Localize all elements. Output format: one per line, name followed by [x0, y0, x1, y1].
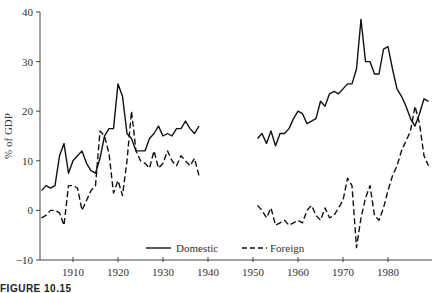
x-tick-label: 1980: [377, 266, 400, 278]
x-tick-label: 1970: [332, 266, 355, 278]
y-ticks: −10010203040: [16, 6, 40, 266]
y-tick-label: 20: [22, 105, 34, 117]
legend: Domestic Foreign: [146, 242, 305, 254]
x-tick-label: 1930: [152, 266, 175, 278]
y-tick-label: 0: [28, 204, 34, 216]
x-tick-label: 1960: [287, 266, 310, 278]
x-tick-label: 1910: [62, 266, 85, 278]
y-tick-label: 30: [22, 56, 34, 68]
y-tick-label: −10: [16, 254, 34, 266]
legend-foreign-label: Foreign: [270, 242, 305, 254]
series-foreign-line: [258, 106, 429, 247]
x-tick-label: 1950: [242, 266, 265, 278]
y-tick-label: 40: [22, 6, 34, 18]
figure-caption: FIGURE 10.15: [0, 283, 72, 293]
x-tick-label: 1940: [197, 266, 220, 278]
legend-domestic-label: Domestic: [176, 242, 218, 254]
y-tick-label: 10: [22, 155, 34, 167]
x-tick-label: 1920: [107, 266, 130, 278]
series-foreign-line: [42, 111, 200, 225]
series-domestic-line: [42, 84, 200, 191]
plot-lines: [42, 19, 429, 247]
y-axis-label: % of GDP: [2, 113, 14, 159]
series-domestic-line: [258, 19, 429, 145]
axes: [40, 12, 432, 260]
line-chart: −10010203040 191019201930194019501960197…: [0, 0, 435, 283]
